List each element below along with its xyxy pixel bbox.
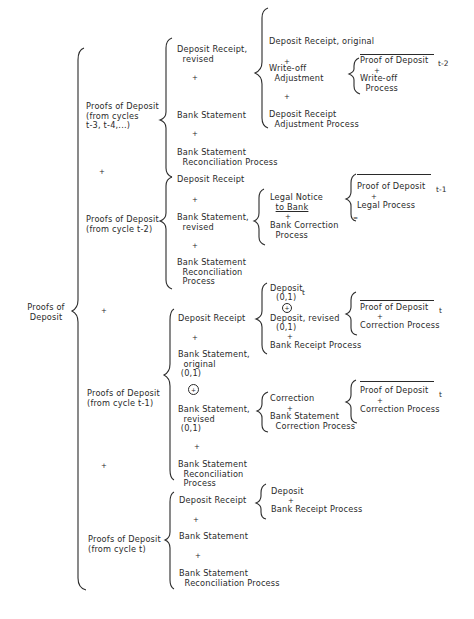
root-label-line1: Proofs of: [27, 302, 64, 312]
g1-subB-subsub-correction-process: Correction Process: [360, 405, 440, 415]
g1-item2-line2: original: [184, 359, 216, 369]
g1-label: Proofs of Deposit (from cycle t-1): [87, 389, 160, 408]
g2-item3-line1: Bank Statement: [177, 257, 246, 267]
g1-subB-subsub-proof-of-deposit: Proof of Deposit: [360, 386, 428, 396]
g0-label-line1: Proofs of Deposit: [88, 534, 161, 544]
g1-item-bank-statement-original: Bank Statement, original (0,1): [178, 350, 250, 379]
g1-plus-2: +: [194, 443, 200, 451]
g1-subA-subsub-proof-of-deposit: Proof of Deposit: [360, 303, 428, 313]
g1-subA-deposit-subscript: t: [302, 289, 305, 297]
g2-item-bank-statement-revised: Bank Statement, revised: [177, 213, 249, 232]
g3-item-deposit-receipt-revised: Deposit Receipt, revised: [177, 45, 247, 64]
g0-sub-deposit: Deposit: [271, 487, 304, 497]
g2-item-deposit-receipt: Deposit Receipt: [177, 175, 244, 185]
g3-item1-line2: revised: [183, 54, 214, 64]
g3-sub-c-line2: Adjustment Process: [275, 119, 359, 129]
g2-item-reconciliation: Bank Statement Reconciliation Process: [177, 258, 246, 287]
g1-label-line1: Proofs of Deposit: [87, 388, 160, 398]
g1-subB-overline: [360, 381, 434, 382]
g2-sub-legal-notice: Legal Notice to Bank: [270, 193, 323, 212]
g3-subsub-b-line2: Process: [366, 83, 398, 93]
g1-subA-oplus-icon: +: [282, 303, 292, 313]
g1-item-reconciliation: Bank Statement Reconciliation Process: [178, 460, 247, 489]
g1-item4-line2: Reconciliation: [184, 469, 244, 479]
g1-item3-line2: revised: [184, 414, 215, 424]
g1-item2-line3: (0,1): [181, 368, 201, 378]
g0-sub-bank-receipt-process: Bank Receipt Process: [271, 505, 362, 515]
g3-item-bank-statement: Bank Statement: [177, 111, 246, 121]
g1-item2-line1: Bank Statement,: [178, 349, 250, 359]
g2-plus-1: +: [192, 196, 198, 204]
g2-label-line2: (from cycle t-2): [86, 224, 152, 234]
g1-subB-b-line2: Correction Process: [276, 421, 356, 431]
g2-sub-brace: [254, 189, 265, 245]
g2-item2-line2: revised: [183, 222, 214, 232]
g3-sub-c-line1: Deposit Receipt: [269, 109, 336, 119]
g3-label-line1: Proofs of Deposit: [86, 101, 159, 111]
g2-subsub-legal-process: Legal Process: [357, 201, 415, 211]
g0-item-reconciliation: Bank Statement Reconciliation Process: [179, 569, 280, 588]
root-label: Proofs of Deposit: [22, 303, 70, 322]
root-label-line2: Deposit: [30, 312, 63, 322]
g3-brace: [160, 38, 172, 177]
g2-item2-line1: Bank Statement,: [177, 212, 249, 222]
g3-sub-plus-2: +: [284, 93, 290, 101]
g3-item3-line1: Bank Statement: [177, 147, 246, 157]
g3-sub-deposit-receipt-original: Deposit Receipt, original: [269, 37, 374, 47]
root-plus-3: +: [101, 462, 107, 470]
g1-subB-brace: [257, 392, 268, 432]
g1-plus-1: +: [192, 334, 198, 342]
g3-label-line2: (from cycles: [86, 111, 139, 121]
g3-plus-1: +: [192, 74, 198, 82]
g2-brace: [160, 177, 172, 289]
g1-item-deposit-receipt: Deposit Receipt: [178, 314, 245, 324]
g1-item3-line3: (0,1): [181, 423, 201, 433]
g3-plus-2: +: [192, 130, 198, 138]
g1-subA-bank-receipt-process: Bank Receipt Process: [270, 341, 361, 351]
g3-sub-b-line2: Adjustment: [275, 73, 324, 83]
g0-item-bank-statement: Bank Statement: [179, 532, 248, 542]
g1-subA-overline: [360, 300, 434, 301]
g0-label-line2: (from cycle t): [88, 544, 146, 554]
g3-subsub-brace: [349, 58, 360, 94]
root-plus-1: +: [99, 168, 105, 176]
g3-sub-write-off-adjustment: Write-off Adjustment: [269, 64, 324, 83]
g2-subsub-proof-of-deposit: Proof of Deposit: [357, 182, 425, 192]
g0-brace: [165, 492, 174, 589]
g3-subsub-write-off-process: Write-off Process: [360, 74, 398, 93]
g0-item-deposit-receipt: Deposit Receipt: [179, 496, 246, 506]
g1-subA-deposit-01: (0,1): [276, 293, 296, 303]
g2-overline: [357, 174, 431, 175]
g3-sub-brace: [255, 8, 268, 128]
g1-subA-subsub-correction-process: Correction Process: [360, 321, 440, 331]
g1-item4-line1: Bank Statement: [178, 459, 247, 469]
g1-brace: [164, 309, 174, 480]
g3-item-reconciliation: Bank Statement Reconciliation Process: [177, 148, 278, 167]
g2-subsub-subscript: t-1: [436, 186, 446, 194]
g0-item3-line1: Bank Statement: [179, 568, 248, 578]
g0-item3-line2: Reconciliation Process: [185, 578, 280, 588]
g2-label-line1: Proofs of Deposit: [86, 214, 159, 224]
g2-item3-line3: Process: [183, 276, 215, 286]
g3-label-line3: t-3, t-4,...): [86, 120, 130, 130]
g2-sub-b-line1: Bank Correction: [270, 220, 339, 230]
g3-sub-deposit-receipt-adjustment: Deposit Receipt Adjustment Process: [269, 110, 359, 129]
root-brace: [72, 48, 86, 590]
g1-subA-deposit-revised-01: (0,1): [276, 323, 296, 333]
g2-sub-bank-correction-process: Bank Correction Process: [270, 221, 339, 240]
g3-subsub-b-line1: Write-off: [360, 73, 397, 83]
g2-sub-a-line1: Legal Notice: [270, 192, 323, 202]
g1-item4-line3: Process: [184, 478, 216, 488]
g2-sub-b-line2: Process: [276, 230, 308, 240]
g1-subA-brace: [256, 283, 267, 354]
g3-subsub-subscript: t-2: [438, 60, 448, 68]
g2-subsub-equals: =: [353, 214, 358, 222]
g0-label: Proofs of Deposit (from cycle t): [88, 535, 161, 554]
g3-item3-line2: Reconciliation Process: [183, 157, 278, 167]
g1-item3-line1: Bank Statement,: [178, 404, 250, 414]
g3-item1-line1: Deposit Receipt,: [177, 44, 247, 54]
root-plus-2: +: [101, 307, 107, 315]
g1-subB-bank-statement-correction: Bank Statement Correction Process: [270, 412, 355, 431]
g2-item3-line2: Reconciliation: [183, 267, 243, 277]
g1-subA-subsub-subscript: t: [439, 307, 442, 315]
